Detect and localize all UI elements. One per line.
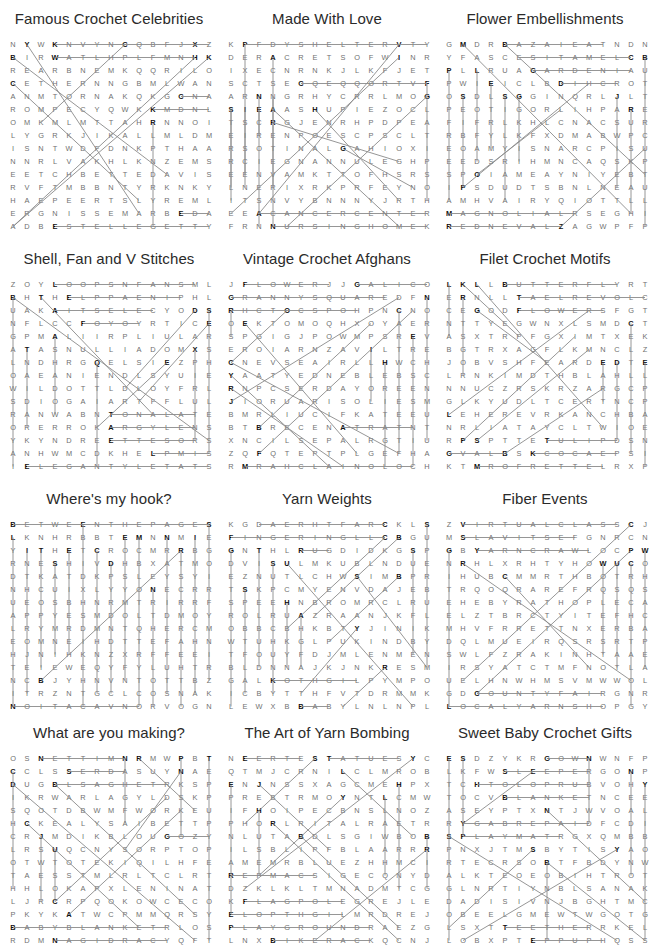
word-search-puzzle: Filet Crochet MotifsLKLLBUTTERFLYRTERNLL…	[436, 240, 654, 476]
found-word-line	[13, 58, 167, 175]
puzzle-title: Filet Crochet Motifs	[436, 250, 654, 267]
found-word-line	[259, 785, 329, 850]
found-word-line	[315, 110, 399, 201]
found-word-line	[273, 123, 399, 162]
puzzle-title: Made With Love	[218, 10, 436, 27]
found-word-line	[231, 311, 287, 363]
solution-lines	[224, 278, 434, 474]
letter-grid: JFLOWERJJGALICOGRANNYSQUAREDFNRHCTOCSPOH…	[224, 278, 434, 474]
letter-grid: KGDAERHTFARCKLSFINGERINGLLCBGUGNTHLRUGDI…	[224, 518, 434, 714]
solution-lines	[6, 752, 216, 948]
word-search-puzzle: Made With LoveKPFDYSHELTERVTYDERACRETSOF…	[218, 0, 436, 236]
found-word-line	[125, 772, 181, 850]
found-word-line	[97, 363, 167, 428]
found-word-line	[505, 577, 589, 668]
found-word-line	[27, 45, 139, 214]
found-word-line	[343, 668, 385, 707]
puzzle-title: Sweet Baby Crochet Gifts	[436, 724, 654, 741]
solution-lines	[442, 752, 652, 948]
found-word-line	[287, 538, 385, 629]
found-word-line	[245, 759, 315, 824]
word-search-puzzle: What are you making?OSNETTIMNRMWPBTCCLSS…	[0, 714, 218, 949]
puzzle-title: Fiber Events	[436, 490, 654, 507]
found-word-line	[301, 629, 357, 694]
found-word-line	[13, 298, 209, 441]
solution-lines	[442, 518, 652, 714]
puzzle-title: Where's my hook?	[0, 490, 218, 507]
found-word-line	[477, 311, 547, 363]
found-word-line	[13, 58, 209, 227]
letter-grid: ZVIRTUALCLASSCJMSLAVITSEFGNRCNGBYARNCRAW…	[442, 518, 652, 714]
word-search-puzzle: Fiber EventsZVIRTUALCLASSCJMSLAVITSEFGNR…	[436, 480, 654, 716]
found-word-line	[259, 311, 413, 454]
found-word-line	[547, 811, 645, 902]
letter-grid: ZOYLOOPSNFANSMLBHTHELPPAENIPHLUAKAITSELE…	[6, 278, 216, 474]
found-word-line	[463, 337, 575, 441]
found-word-line	[125, 311, 195, 389]
puzzle-title: Famous Crochet Celebrities	[0, 10, 218, 27]
puzzle-title: Vintage Crochet Afghans	[218, 250, 436, 267]
solution-lines	[442, 38, 652, 234]
word-search-puzzle: Yarn WeightsKGDAERHTFARCKLSFINGERINGLLCB…	[218, 480, 436, 716]
found-word-line	[231, 363, 399, 454]
found-word-line	[315, 538, 399, 616]
letter-grid: NYWKNVYNCQBFJXZBIRWATLHPLFMNHKREARBNEMKQ…	[6, 38, 216, 234]
letter-grid: KPFDYSHELTERVTYDERACRETSOFWINRIXECNRNKJL…	[224, 38, 434, 234]
found-word-line	[463, 84, 589, 188]
puzzle-title: Shell, Fan and V Stitches	[0, 250, 218, 267]
found-word-line	[259, 45, 399, 214]
word-search-puzzle: Vintage Crochet AfghansJFLOWERJJGALICOGR…	[218, 240, 436, 476]
found-word-line	[13, 58, 195, 227]
found-word-line	[463, 45, 631, 214]
found-word-line	[315, 850, 427, 941]
solution-lines	[224, 752, 434, 948]
found-word-line	[463, 525, 631, 681]
puzzle-title: The Art of Yarn Bombing	[218, 724, 436, 741]
found-word-line	[547, 863, 645, 941]
word-search-puzzle: Shell, Fan and V StitchesZOYLOOPSNFANSML…	[0, 240, 218, 476]
letter-grid: NEERTESTATUESYCQTMJCRNILCLMROBENJNSSXAGC…	[224, 752, 434, 948]
found-word-line	[561, 149, 645, 227]
solution-lines	[6, 38, 216, 234]
solution-lines	[442, 278, 652, 474]
found-word-line	[13, 785, 195, 941]
found-word-line	[55, 798, 167, 902]
found-word-line	[13, 84, 139, 201]
found-word-line	[449, 311, 589, 415]
found-word-line	[245, 759, 413, 889]
found-word-line	[273, 110, 399, 227]
word-search-puzzle: Sweet Baby Crochet GiftsESDZYKRGOWNWNFPL…	[436, 714, 654, 949]
found-word-line	[259, 324, 371, 428]
found-word-line	[139, 324, 209, 402]
word-search-puzzle: The Art of Yarn BombingNEERTESTATUESYCQT…	[218, 714, 436, 949]
letter-grid: BETWEENTHEPAGESLKNHRBBTEMNNMIEYITHETCROC…	[6, 518, 216, 714]
found-word-line	[343, 149, 413, 188]
word-search-puzzle: Flower EmbellishmentsGMDRBAZAIEATNDNYFAS…	[436, 0, 654, 236]
found-word-line	[449, 850, 533, 928]
puzzle-title: Yarn Weights	[218, 490, 436, 507]
solution-lines	[224, 518, 434, 714]
found-word-line	[463, 285, 519, 337]
found-word-line	[357, 577, 427, 668]
found-word-line	[477, 551, 631, 694]
found-word-line	[301, 837, 399, 928]
letter-grid: LKLLBUTTERFLYRTERNLLTAELREVOLCCEGODFLOWE…	[442, 278, 652, 474]
letter-grid: GMDRBAZAIEATNDNYFASCESITAMELCBPLLRUAGARD…	[442, 38, 652, 234]
found-word-line	[477, 285, 603, 428]
puzzle-title: What are you making?	[0, 724, 218, 741]
found-word-line	[505, 45, 645, 175]
found-word-line	[463, 850, 617, 941]
found-word-line	[69, 811, 181, 915]
found-word-line	[287, 564, 413, 707]
solution-lines	[6, 518, 216, 714]
word-search-puzzle: Famous Crochet CelebritiesNYWKNVYNCQBFJX…	[0, 0, 218, 236]
found-word-line	[287, 97, 427, 227]
found-word-line	[505, 389, 603, 454]
found-word-line	[477, 350, 589, 441]
puzzle-sheet: Famous Crochet CelebritiesNYWKNVYNCQBFJX…	[0, 0, 655, 949]
solution-lines	[6, 278, 216, 474]
solution-lines	[224, 38, 434, 234]
word-search-puzzle: Where's my hook?BETWEENTHEPAGESLKNHRBBTE…	[0, 480, 218, 716]
letter-grid: OSNETTIMNRMWPBTCCLSSERDASUYNAEDUGBLSAGHE…	[6, 752, 216, 948]
letter-grid: ESDZYKRGOWNWNFPLKFWSLEEPERGONPTCHTOLOPRU…	[442, 752, 652, 948]
